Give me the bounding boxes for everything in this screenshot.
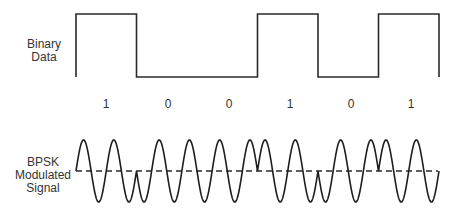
diagram-canvas (0, 0, 464, 219)
binary-square-wave (76, 14, 439, 77)
